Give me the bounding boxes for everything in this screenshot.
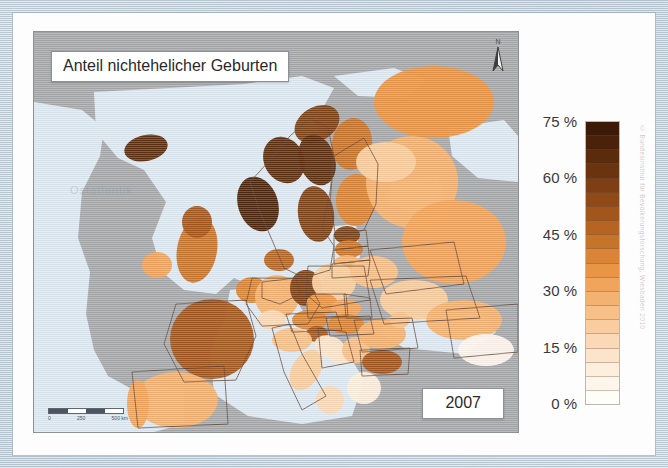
figure-page: Island: 66 %Norwegen (Nord): 60 %Norwege…: [0, 0, 668, 468]
map-region[interactable]: Schweiz: 17 %: [258, 310, 286, 330]
scale-max: 500 km: [112, 415, 128, 421]
map-year-badge: 2007: [422, 388, 504, 419]
legend-tick-30: 30 %: [543, 282, 577, 299]
legend-swatch-1: [586, 136, 619, 150]
legend-swatch-10: [586, 264, 619, 278]
legend-swatch-12: [586, 292, 619, 306]
legend-swatch-7: [586, 221, 619, 235]
legend-swatch-13: [586, 306, 619, 320]
legend-tick-60: 60 %: [543, 169, 577, 186]
legend-swatch-17: [586, 363, 619, 377]
legend: 75 %60 %45 %30 %15 %0 %: [533, 121, 625, 403]
map-region[interactable]: Russland (Nord): 36 %: [374, 66, 494, 138]
scale-min: 0: [48, 415, 51, 421]
map-region[interactable]: Moldau: 22 %: [390, 312, 410, 328]
legend-tick-labels: 75 %60 %45 %30 %15 %0 %: [533, 121, 577, 403]
legend-swatch-16: [586, 349, 619, 363]
scale-bar-segments: [48, 408, 124, 414]
legend-swatch-2: [586, 150, 619, 164]
legend-swatch-14: [586, 320, 619, 334]
map-canvas: Island: 66 %Norwegen (Nord): 60 %Norwege…: [34, 32, 518, 432]
legend-tick-45: 45 %: [543, 225, 577, 242]
map-region[interactable]: Türkei: 2 %: [458, 334, 514, 366]
legend-tick-0: 0 %: [551, 395, 577, 412]
legend-swatch-15: [586, 334, 619, 348]
legend-swatch-0: [586, 122, 619, 136]
legend-swatch-3: [586, 164, 619, 178]
legend-swatch-5: [586, 193, 619, 207]
legend-swatch-11: [586, 278, 619, 292]
map-region[interactable]: Irland: 33 %: [142, 252, 172, 278]
north-arrow-glyph: [487, 45, 509, 75]
legend-swatch-4: [586, 179, 619, 193]
legend-swatch-18: [586, 377, 619, 391]
map-region[interactable]: Karelien: 18 %: [356, 142, 416, 182]
map-region[interactable]: Bulgarien: 51 %: [362, 350, 402, 374]
map-region[interactable]: Griechenland: 6 %: [347, 372, 381, 404]
north-arrow-icon: N: [487, 38, 509, 78]
map-title: Anteil nichtehelicher Geburten: [51, 51, 289, 82]
map-region[interactable]: Dänemark: 46 %: [264, 249, 294, 271]
figure-paper: Island: 66 %Norwegen (Nord): 60 %Norwege…: [13, 13, 655, 455]
legend-tick-15: 15 %: [543, 338, 577, 355]
scale-bar: 0 250 500 km: [48, 408, 140, 424]
legend-swatch-9: [586, 249, 619, 263]
legend-swatch-6: [586, 207, 619, 221]
scale-mid: 250: [77, 415, 85, 421]
legend-swatch-19: [586, 391, 619, 404]
legend-color-ramp: [585, 121, 620, 405]
legend-tick-75: 75 %: [543, 113, 577, 130]
legend-swatch-8: [586, 235, 619, 249]
north-arrow-label: N: [487, 38, 509, 45]
scale-bar-labels: 0 250 500 km: [48, 415, 128, 421]
map-region[interactable]: Schottland: 50 %: [182, 206, 212, 238]
ocean-label: Ostatlantik: [70, 184, 133, 196]
map-panel[interactable]: Island: 66 %Norwegen (Nord): 60 %Norwege…: [34, 32, 518, 432]
source-credit: © Bundesinstitut für Bevölkerungsforschu…: [639, 125, 646, 329]
